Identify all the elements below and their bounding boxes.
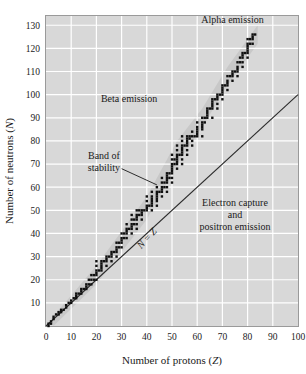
data-point	[226, 89, 228, 91]
data-point	[211, 117, 213, 119]
data-point	[236, 70, 238, 72]
data-point	[166, 172, 168, 174]
y-tick-label: 50	[31, 206, 41, 216]
data-point	[166, 174, 168, 176]
data-point	[125, 232, 127, 234]
annotation-band-of-stability: Band ofstability	[88, 150, 121, 173]
y-tick-label: 120	[26, 44, 41, 54]
data-point	[234, 70, 236, 72]
data-point	[73, 297, 75, 299]
data-point	[151, 205, 153, 207]
data-point	[214, 98, 216, 100]
data-point	[88, 283, 90, 285]
data-point	[130, 218, 132, 220]
x-tick-label: 20	[92, 332, 102, 342]
data-point	[183, 144, 185, 146]
x-tick-label: 30	[117, 332, 127, 342]
data-point	[60, 311, 62, 313]
y-tick-label: 60	[31, 183, 41, 193]
data-point	[136, 228, 138, 230]
data-point	[100, 260, 102, 262]
data-point	[120, 242, 122, 244]
data-point	[251, 33, 253, 35]
y-tick-label: 20	[31, 275, 41, 285]
data-point	[229, 75, 231, 77]
data-point	[136, 209, 138, 211]
data-point	[136, 214, 138, 216]
data-point	[156, 205, 158, 207]
data-point	[186, 140, 188, 142]
data-point	[201, 124, 203, 126]
data-point	[95, 279, 97, 281]
data-point	[216, 96, 218, 98]
data-point	[241, 66, 243, 68]
chart-figure: 0102030405060708090100102030405060708090…	[0, 0, 306, 374]
data-point	[188, 137, 190, 139]
data-point	[123, 232, 125, 234]
data-point	[80, 290, 82, 292]
data-point	[241, 54, 243, 56]
data-point	[176, 156, 178, 158]
data-point	[254, 33, 256, 35]
data-point	[176, 144, 178, 146]
data-point	[136, 218, 138, 220]
data-point	[118, 246, 120, 248]
data-point	[209, 107, 211, 109]
data-point	[80, 288, 82, 290]
data-point	[161, 186, 163, 188]
data-point	[176, 167, 178, 169]
data-point	[171, 165, 173, 167]
data-point	[216, 93, 218, 95]
data-point	[193, 135, 195, 137]
data-point	[171, 158, 173, 160]
data-point	[70, 302, 72, 304]
data-point	[191, 140, 193, 142]
data-point	[146, 205, 148, 207]
data-point	[181, 151, 183, 153]
data-point	[246, 47, 248, 49]
data-point	[186, 137, 188, 139]
data-point	[181, 144, 183, 146]
data-point	[115, 251, 117, 253]
data-point	[90, 274, 92, 276]
data-point	[166, 179, 168, 181]
data-point	[171, 167, 173, 169]
data-point	[138, 209, 140, 211]
data-point	[249, 43, 251, 45]
data-point	[251, 36, 253, 38]
data-point	[241, 61, 243, 63]
data-point	[118, 242, 120, 244]
data-point	[105, 265, 107, 267]
data-point	[166, 186, 168, 188]
data-point	[216, 98, 218, 100]
data-point	[158, 191, 160, 193]
data-point	[201, 126, 203, 128]
data-point	[226, 80, 228, 82]
x-tick-label: 80	[243, 332, 253, 342]
data-point	[196, 128, 198, 130]
data-point	[151, 202, 153, 204]
data-point	[173, 163, 175, 165]
data-point	[236, 75, 238, 77]
data-point	[181, 147, 183, 149]
data-point	[105, 260, 107, 262]
data-point	[236, 61, 238, 63]
data-point	[246, 52, 248, 54]
data-point	[211, 107, 213, 109]
data-point	[246, 38, 248, 40]
data-point	[120, 232, 122, 234]
data-point	[120, 246, 122, 248]
data-point	[196, 133, 198, 135]
data-point	[168, 177, 170, 179]
data-point	[211, 103, 213, 105]
data-point	[181, 154, 183, 156]
data-point	[246, 45, 248, 47]
data-point	[201, 135, 203, 137]
data-point	[47, 322, 49, 324]
data-point	[201, 128, 203, 130]
data-point	[146, 209, 148, 211]
data-point	[75, 292, 77, 294]
data-point	[206, 112, 208, 114]
data-point	[201, 117, 203, 119]
data-point	[141, 211, 143, 213]
